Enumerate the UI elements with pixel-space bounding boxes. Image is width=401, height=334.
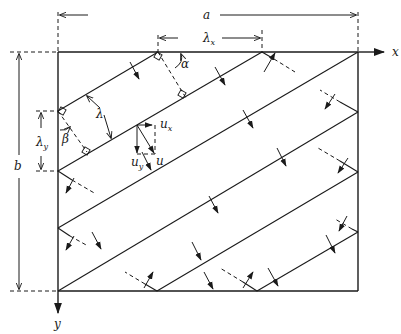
wave-reflection-diagram: x y a λx b λy [0, 0, 401, 334]
x-axis: x [358, 45, 399, 59]
label-b: b [14, 159, 22, 173]
propagation-arrows [66, 53, 348, 289]
label-alpha: α [181, 57, 189, 71]
label-lambda: λ [95, 107, 104, 121]
x-axis-label: x [392, 45, 399, 59]
y-axis-label: y [53, 317, 61, 331]
domain-rectangle [58, 52, 358, 291]
dimension-lambda-y: λy [35, 111, 58, 171]
label-lambda-x: λx [202, 31, 216, 47]
label-lambda-y: λy [35, 135, 49, 151]
label-u: u [156, 154, 164, 168]
label-u-x: ux [160, 117, 173, 133]
reflected-waves [58, 52, 358, 291]
y-axis: y [53, 291, 61, 331]
label-u-y: uy [131, 155, 144, 171]
label-a: a [203, 8, 210, 22]
dimension-lambda-x: λx [158, 30, 262, 52]
wave-crest-lines [58, 52, 358, 291]
label-beta: β [61, 132, 69, 146]
dimension-a: a [58, 8, 358, 52]
wavelength-construction: λ β [58, 96, 111, 155]
velocity-decomposition: ux uy u [131, 117, 173, 171]
angle-alpha-construction: α [154, 52, 189, 98]
